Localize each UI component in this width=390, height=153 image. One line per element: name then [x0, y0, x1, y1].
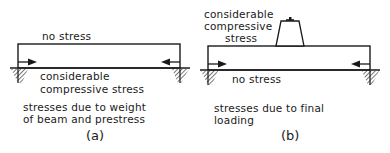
panel-b-top-label-line-2: compressive	[204, 20, 272, 32]
panel-b-caption-line-2: loading	[214, 114, 254, 126]
prestress-arrow-left-a	[161, 59, 180, 66]
prestress-arrow-left-b	[351, 61, 370, 68]
panel-a-bottom-label-line-2: compressive stress	[40, 83, 144, 95]
panel-b-bottom-label: no stress	[232, 73, 281, 85]
load-block-b	[276, 17, 304, 46]
panel-a-label: (a)	[86, 129, 104, 143]
beam-b	[208, 46, 370, 70]
panel-b-top-label-line-1: considerable	[204, 8, 274, 20]
panel-a-bottom-label-line-1: considerable	[40, 70, 110, 82]
support-right-b	[362, 71, 379, 85]
panel-a-top-label: no stress	[42, 30, 91, 42]
panel-a-caption-line-1: stresses due to weight	[23, 101, 146, 113]
panel-a-caption-line-2: of beam and prestress	[23, 113, 145, 125]
support-left-a	[11, 69, 28, 83]
panel-b-label: (b)	[281, 129, 299, 143]
beam-a	[18, 44, 180, 68]
panel-b-top-label-line-3: stress	[225, 32, 257, 44]
prestress-arrow-right-b	[208, 61, 227, 68]
support-left-b	[201, 71, 218, 85]
support-right-a	[172, 69, 189, 83]
panel-b-caption-line-1: stresses due to final	[214, 102, 324, 114]
prestress-arrow-right-a	[18, 59, 37, 66]
